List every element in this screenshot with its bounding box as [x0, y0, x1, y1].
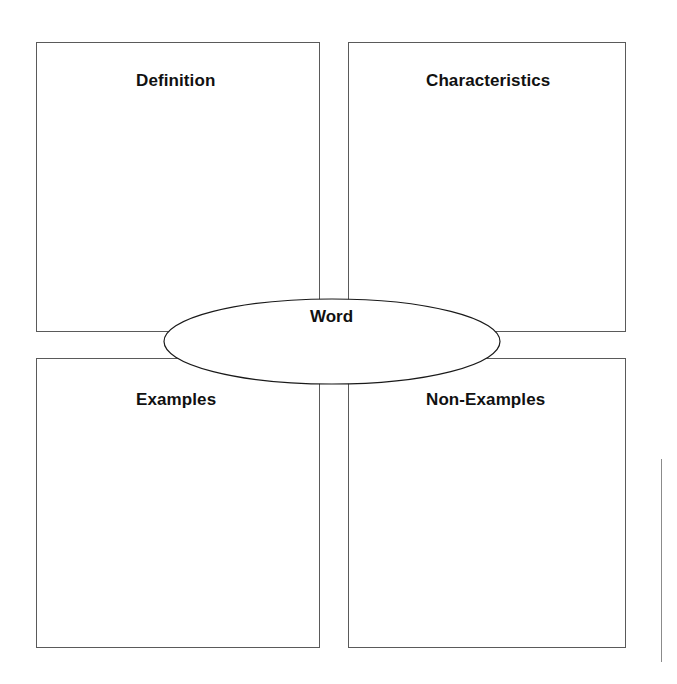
- quadrant-label-definition: Definition: [136, 71, 215, 91]
- page-edge-artifact-line: [661, 459, 662, 662]
- quadrant-label-non-examples: Non-Examples: [426, 390, 545, 410]
- frayer-model-page: Definition Characteristics Examples Non-…: [0, 0, 677, 684]
- quadrant-label-examples: Examples: [136, 390, 216, 410]
- center-ellipse-label: Word: [310, 307, 353, 327]
- quadrant-label-characteristics: Characteristics: [426, 71, 550, 91]
